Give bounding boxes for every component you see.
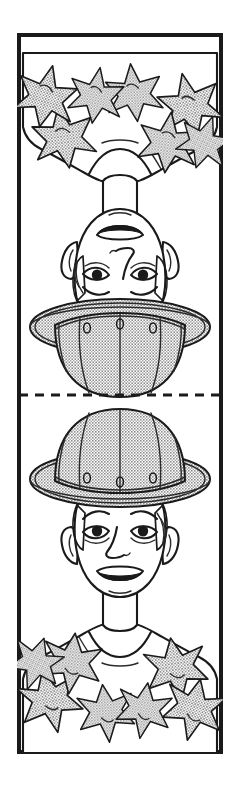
illustration-svg — [17, 33, 223, 754]
artboard — [17, 33, 223, 754]
illustration-stage: Boy with pith helmet and flower lei — [0, 0, 239, 794]
